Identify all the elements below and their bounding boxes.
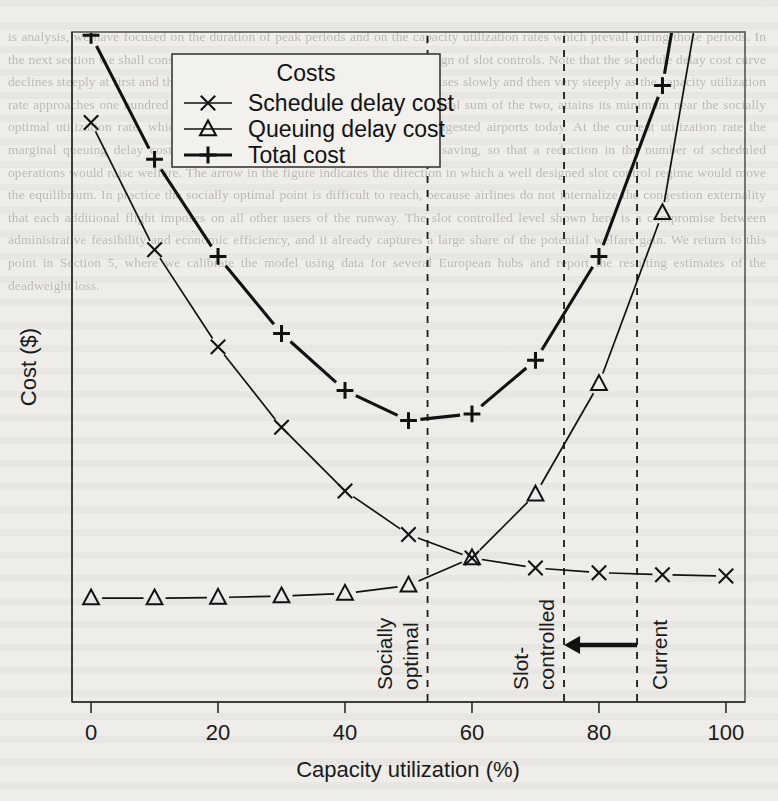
legend-entry-label: Schedule delay cost xyxy=(248,90,454,116)
data-point-marker xyxy=(84,115,98,129)
x-tick-label: 20 xyxy=(206,720,230,745)
data-point-marker xyxy=(147,243,161,257)
series-segment xyxy=(293,594,335,596)
arrow-head xyxy=(564,636,580,654)
series-segment xyxy=(603,97,658,245)
series-segment xyxy=(419,562,462,581)
series-segment xyxy=(96,131,151,240)
annotation-vertical-lines xyxy=(428,36,638,702)
reduction-arrow xyxy=(564,636,637,654)
data-point-marker xyxy=(591,375,607,390)
data-point-marker xyxy=(210,589,226,604)
annotation-label-socially-optimal: Socially xyxy=(373,617,396,690)
data-point-marker xyxy=(273,325,290,342)
series-segment xyxy=(290,342,336,383)
data-point-marker xyxy=(654,77,671,94)
data-point-marker xyxy=(338,484,352,498)
data-point-marker xyxy=(401,527,415,541)
series-segment xyxy=(420,415,460,419)
data-point-marker xyxy=(655,568,669,582)
series-segment xyxy=(672,575,715,576)
x-axis-title: Capacity utilization (%) xyxy=(296,757,520,782)
chart-svg: SociallyoptimalSlot-controlledCurrent 02… xyxy=(0,0,778,801)
series-segment xyxy=(229,596,270,597)
x-tick-label: 0 xyxy=(85,720,97,745)
series-segment xyxy=(418,538,463,555)
series-segment xyxy=(542,267,593,350)
y-axis-title: Cost ($) xyxy=(16,328,41,406)
series-segment xyxy=(97,46,150,149)
series-segment xyxy=(545,569,589,572)
series-segment xyxy=(226,266,274,325)
series-segment xyxy=(356,396,398,416)
series-segment xyxy=(481,368,526,406)
data-point-marker xyxy=(274,420,288,434)
series-segment xyxy=(480,502,528,550)
data-point-marker xyxy=(337,382,354,399)
series-segment xyxy=(482,560,526,567)
data-point-marker xyxy=(83,27,100,44)
legend-entry-label: Queuing delay cost xyxy=(248,116,446,142)
x-tick-label: 100 xyxy=(708,720,745,745)
data-point-marker xyxy=(211,340,225,354)
data-point-marker xyxy=(528,486,544,501)
series-segment xyxy=(353,497,400,529)
annotation-label-slot-controlled: Slot- xyxy=(509,647,532,690)
x-tick-label: 40 xyxy=(333,720,357,745)
series-segment xyxy=(541,393,594,484)
data-point-marker xyxy=(83,590,99,605)
x-axis-ticks: 020406080100 xyxy=(85,702,744,745)
annotation-label-current: Current xyxy=(648,620,671,690)
data-point-marker xyxy=(147,590,163,605)
series-segment xyxy=(603,223,659,373)
data-point-marker xyxy=(210,248,227,265)
data-point-marker xyxy=(719,569,733,583)
data-point-marker xyxy=(655,204,671,219)
legend-title: Costs xyxy=(277,60,336,86)
data-point-marker xyxy=(401,577,417,592)
data-point-marker xyxy=(464,406,481,423)
series-segment xyxy=(160,258,213,338)
series-segment xyxy=(161,169,211,246)
data-point-marker xyxy=(528,561,542,575)
series-segment xyxy=(664,0,723,74)
data-point-marker xyxy=(591,248,608,265)
data-point-marker xyxy=(337,585,353,600)
x-tick-label: 80 xyxy=(587,720,611,745)
series-segment xyxy=(664,0,724,202)
x-tick-label: 60 xyxy=(460,720,484,745)
data-point-marker xyxy=(274,588,290,603)
annotation-label-socially-optimal: optimal xyxy=(399,622,422,690)
data-point-marker xyxy=(527,352,544,369)
legend-entry-label: Total cost xyxy=(248,142,346,168)
cost-vs-capacity-utilization-figure: SociallyoptimalSlot-controlledCurrent 02… xyxy=(0,0,778,801)
data-point-marker xyxy=(592,565,606,579)
series-segment xyxy=(289,434,338,483)
series-segment xyxy=(609,573,653,574)
data-point-marker xyxy=(400,412,417,429)
annotation-label-slot-controlled: controlled xyxy=(535,599,558,690)
series-segment xyxy=(224,355,275,420)
series-segment xyxy=(356,587,398,592)
legend: Costs Schedule delay costQueuing delay c… xyxy=(172,54,454,168)
series-schedule-delay-cost xyxy=(84,115,733,583)
data-point-marker xyxy=(146,151,163,168)
